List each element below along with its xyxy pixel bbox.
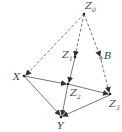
node-y (60, 116, 63, 119)
label-y: Y (57, 121, 64, 131)
edge-b-z3 (101, 60, 109, 92)
node-z1 (74, 56, 77, 59)
node-z3 (109, 93, 112, 96)
label-z2: Z2 (70, 88, 81, 100)
edge-z0-b (84, 14, 100, 56)
label-z1: Z1 (62, 50, 73, 62)
label-b: B (104, 51, 111, 61)
label-z3: Z3 (109, 99, 120, 111)
node-b (100, 57, 103, 60)
node-z0 (83, 13, 86, 16)
causal-diagram: Z0 Z1 B X Z2 Z3 Y (0, 0, 122, 132)
edge-z0-z1 (75, 14, 84, 56)
label-z0: Z0 (85, 1, 96, 13)
node-z2 (67, 83, 70, 86)
node-x (23, 75, 26, 78)
label-x: X (13, 72, 20, 82)
edge-z2-y (62, 84, 68, 115)
diagram-edges (0, 0, 122, 132)
edge-z0-x (26, 14, 84, 75)
